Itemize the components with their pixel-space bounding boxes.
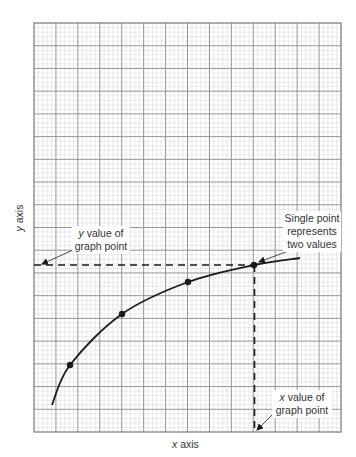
y-axis-label: y axis (13, 200, 25, 236)
data-point-marker (251, 262, 257, 268)
single-point-line1: Single point (283, 212, 341, 225)
single-point-line3: two values (283, 238, 341, 251)
y-axis-text: axis (13, 205, 25, 227)
y-axis-var: y (13, 226, 25, 231)
x-value-annotation: x value of graph point (272, 390, 332, 418)
x-value-text: value of (285, 391, 325, 403)
y-value-text-line2: graph point (72, 240, 130, 253)
data-point-marker (185, 279, 191, 285)
y-value-annotation: y value of graph point (72, 226, 130, 254)
x-axis-label: x axis (172, 438, 199, 450)
y-value-arrow (42, 250, 73, 264)
y-value-text: value of (84, 227, 124, 239)
data-curve (52, 258, 300, 405)
x-value-text-line2: graph point (272, 404, 332, 417)
x-axis-text: axis (177, 438, 199, 450)
single-point-annotation: Single point represents two values (283, 211, 341, 252)
data-point-marker (119, 311, 125, 317)
single-point-line2: represents (283, 225, 341, 238)
data-point-marker (67, 362, 73, 368)
